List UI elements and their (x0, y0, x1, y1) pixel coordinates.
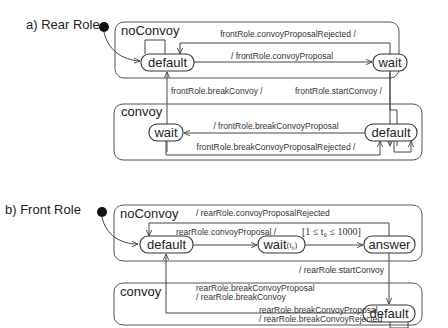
region-label-convoy-a: convoy (121, 104, 163, 119)
selfloop-default-a (145, 40, 165, 54)
svg-text:frontRole.breakConvoyProposalR: frontRole.breakConvoyProposalRejected / (197, 142, 356, 152)
svg-text:default: default (148, 55, 187, 70)
state-default-convoy-a: default (365, 124, 417, 141)
svg-text:answer: answer (369, 237, 412, 252)
svg-text:wait: wait (377, 55, 402, 70)
state-wait-noconvoy-b: wait (t₀) (258, 236, 305, 253)
initial-transition-b (102, 217, 138, 244)
state-answer-noconvoy-b: answer (364, 236, 415, 253)
svg-text:rearRole.convoyProposal /: rearRole.convoyProposal / (176, 227, 277, 237)
region-label-noconvoy-a: noConvoy (121, 23, 180, 38)
svg-text:/ rearRole.breakConvoy: / rearRole.breakConvoy (196, 292, 287, 302)
svg-text:(t₀): (t₀) (287, 241, 298, 250)
state-default-noconvoy-b: default (140, 236, 193, 253)
svg-text:wait: wait (262, 237, 287, 252)
region-label-noconvoy-b: noConvoy (120, 206, 179, 221)
state-default-noconvoy-a: default (141, 54, 194, 71)
region-label-convoy-b: convoy (120, 284, 162, 299)
state-wait-noconvoy-a: wait (373, 54, 407, 71)
svg-text:[1 ≤ t₀ ≤ 1000]: [1 ≤ t₀ ≤ 1000] (302, 226, 361, 237)
svg-text:frontRole.startConvoy /: frontRole.startConvoy / (295, 86, 383, 96)
svg-text:/ frontRole.breakConvoyProposa: / frontRole.breakConvoyProposal (213, 121, 338, 131)
svg-text:wait: wait (153, 125, 178, 140)
front-role-section: b) Front Role noConvoy default / rearRol… (5, 202, 422, 328)
svg-text:frontRole.convoyProposalReject: frontRole.convoyProposalRejected / (220, 29, 356, 39)
svg-text:default: default (147, 237, 186, 252)
section-title-rear-role: a) Rear Role (26, 17, 100, 32)
svg-text:/ rearRole.convoyProposalRejec: / rearRole.convoyProposalRejected (196, 208, 330, 218)
statechart-diagram: a) Rear Role noConvoy default frontRole.… (0, 0, 448, 328)
svg-text:frontRole.breakConvoy /: frontRole.breakConvoy / (171, 86, 263, 96)
initial-state-icon (99, 22, 109, 32)
svg-text:default: default (371, 125, 410, 140)
rear-role-section: a) Rear Role noConvoy default frontRole.… (26, 17, 422, 160)
section-title-front-role: b) Front Role (5, 202, 81, 217)
initial-state-icon (97, 207, 107, 217)
svg-text:/ frontRole.convoyProposal: / frontRole.convoyProposal (231, 51, 333, 61)
state-wait-convoy-a: wait (149, 124, 183, 141)
svg-text:/ rearRole.breakConvoyRejected: / rearRole.breakConvoyRejected (259, 314, 383, 324)
svg-text:/ rearRole.startConvoy: / rearRole.startConvoy (299, 265, 385, 275)
